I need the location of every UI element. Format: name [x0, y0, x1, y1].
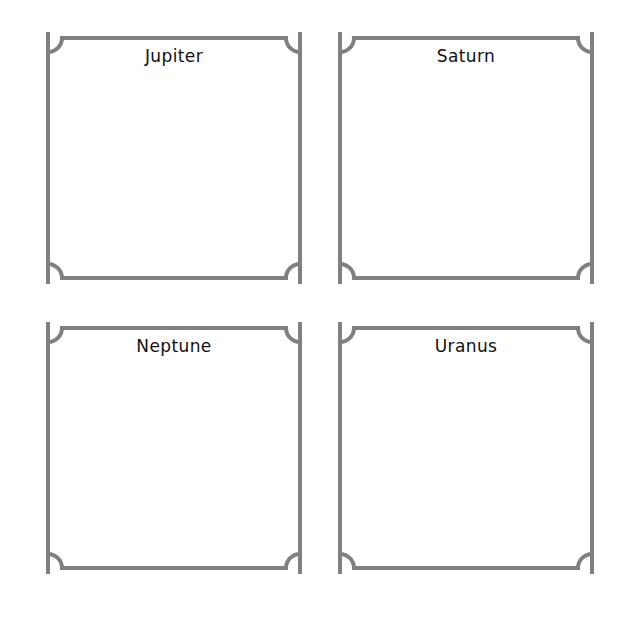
planet-drawing-area-neptune[interactable] [52, 366, 296, 564]
planet-drawing-area-saturn[interactable] [344, 76, 588, 274]
planet-box-neptune[interactable]: Neptune [38, 318, 310, 578]
planet-box-saturn[interactable]: Saturn [330, 28, 602, 288]
worksheet-canvas: Jupiter Saturn Neptune Uranus [0, 0, 638, 621]
planet-drawing-area-uranus[interactable] [344, 366, 588, 564]
planet-label-saturn: Saturn [330, 48, 602, 65]
planet-box-jupiter[interactable]: Jupiter [38, 28, 310, 288]
planet-box-uranus[interactable]: Uranus [330, 318, 602, 578]
planet-label-uranus: Uranus [330, 338, 602, 355]
planet-label-jupiter: Jupiter [38, 48, 310, 65]
planet-label-neptune: Neptune [38, 338, 310, 355]
planet-drawing-area-jupiter[interactable] [52, 76, 296, 274]
